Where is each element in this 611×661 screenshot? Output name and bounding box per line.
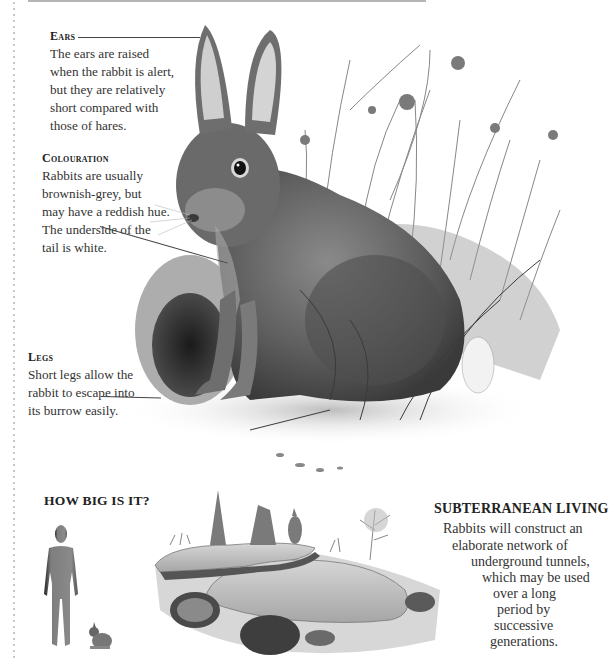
callout-legs-line: its burrow easily. xyxy=(28,402,168,420)
subterranean-line: generations. xyxy=(490,632,558,651)
how-big-title: HOW BIG IS IT? xyxy=(44,493,150,509)
callout-legs: Legs Short legs allow the rabbit to esca… xyxy=(28,350,168,420)
rabbit-scale-icon xyxy=(87,622,113,650)
callout-colouration-line: Rabbits are usually xyxy=(42,167,202,185)
ears-leader-line xyxy=(78,37,200,38)
callout-ears: Ears The ears are raised when the rabbit… xyxy=(50,29,200,135)
callout-colouration-line: brownish-grey, but xyxy=(42,185,202,203)
callout-colouration-line: may have a reddish hue. xyxy=(42,203,202,221)
callout-ears-line: but they are relatively xyxy=(50,81,200,99)
top-rule xyxy=(28,0,426,2)
callout-ears-line: The ears are raised xyxy=(50,45,200,63)
callout-colouration-heading: Colouration xyxy=(42,151,202,165)
human-silhouette-icon xyxy=(40,524,82,648)
callout-colouration: Colouration Rabbits are usually brownish… xyxy=(42,151,202,257)
callout-ears-line: when the rabbit is alert, xyxy=(50,63,200,81)
callout-colouration-line: The underside of the xyxy=(42,221,202,239)
callout-legs-line: rabbit to escape into xyxy=(28,384,168,402)
callout-ears-line: those of hares. xyxy=(50,117,200,135)
burrow-cross-section-illustration xyxy=(150,490,450,658)
subterranean-title: SUBTERRANEAN LIVING xyxy=(434,501,609,517)
page-margin-dots xyxy=(13,0,15,661)
callout-legs-line: Short legs allow the xyxy=(28,366,168,384)
callout-ears-heading: Ears xyxy=(50,29,200,43)
callout-legs-heading: Legs xyxy=(28,350,168,364)
callout-ears-line: short compared with xyxy=(50,99,200,117)
